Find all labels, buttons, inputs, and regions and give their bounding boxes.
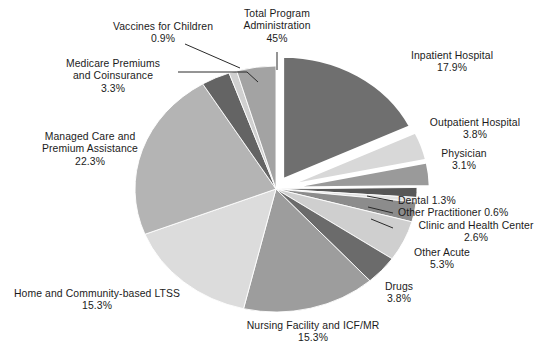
pie-label-vaccines-for-children-value: 0.9% <box>90 33 236 45</box>
pie-label-clinic-and-health-center: Clinic and Health Center 2.6% <box>398 220 554 245</box>
pie-label-outpatient-hospital: Outpatient Hospital 3.8% <box>412 117 538 142</box>
pie-label-medicare-premiums-name-line2: and Coinsurance <box>48 70 178 82</box>
pie-label-managed-care-name-line2: Premium Assistance <box>22 143 158 155</box>
pie-label-physician-value: 3.1% <box>416 160 512 172</box>
pie-label-nursing-facility-value: 15.3% <box>218 332 408 344</box>
leader-line-vaccines <box>185 44 240 68</box>
pie-label-vaccines-for-children: Vaccines for Children 0.9% <box>90 21 236 46</box>
pie-label-outpatient-hospital-value: 3.8% <box>412 129 538 141</box>
pie-label-outpatient-hospital-name: Outpatient Hospital <box>412 117 538 129</box>
pie-label-medicare-premiums: Medicare Premiums and Coinsurance 3.3% <box>48 58 178 95</box>
pie-label-other-practitioner-name: Other Practitioner <box>398 207 481 218</box>
pie-label-other-practitioner: Other Practitioner 0.6% <box>398 207 508 219</box>
pie-label-clinic-and-health-center-name: Clinic and Health Center <box>398 220 554 232</box>
pie-label-hcbs-name: Home and Community-based LTSS <box>4 288 190 300</box>
pie-chart-figure: Inpatient Hospital 17.9% Outpatient Hosp… <box>0 0 558 357</box>
pie-slice-group <box>135 56 430 312</box>
pie-label-other-acute-value: 5.3% <box>396 259 488 271</box>
pie-label-inpatient-hospital: Inpatient Hospital 17.9% <box>392 50 512 75</box>
pie-label-nursing-facility: Nursing Facility and ICF/MR 15.3% <box>218 320 408 345</box>
pie-label-physician-name: Physician <box>416 148 512 160</box>
pie-label-nursing-facility-name: Nursing Facility and ICF/MR <box>218 320 408 332</box>
pie-label-inpatient-hospital-value: 17.9% <box>392 62 512 74</box>
pie-label-dental: Dental 1.3% <box>398 195 456 207</box>
pie-label-vaccines-for-children-name: Vaccines for Children <box>90 21 236 33</box>
pie-label-total-program-administration-name-line1: Total Program <box>222 8 332 20</box>
pie-label-other-acute-name: Other Acute <box>396 247 488 259</box>
pie-label-managed-care: Managed Care and Premium Assistance 22.3… <box>22 131 158 168</box>
pie-label-total-program-administration-value: 45% <box>222 33 332 45</box>
pie-label-drugs-name: Drugs <box>372 281 426 293</box>
pie-label-clinic-and-health-center-value: 2.6% <box>398 232 554 244</box>
pie-label-drugs: Drugs 3.8% <box>372 281 426 306</box>
pie-label-inpatient-hospital-name: Inpatient Hospital <box>392 50 512 62</box>
pie-label-hcbs: Home and Community-based LTSS 15.3% <box>4 288 190 313</box>
pie-label-managed-care-value: 22.3% <box>22 156 158 168</box>
pie-label-dental-name: Dental <box>398 195 429 206</box>
pie-label-dental-value: 1.3% <box>432 195 456 206</box>
pie-label-medicare-premiums-value: 3.3% <box>48 83 178 95</box>
pie-label-total-program-administration-name-line2: Administration <box>222 20 332 32</box>
pie-label-managed-care-name-line1: Managed Care and <box>22 131 158 143</box>
pie-label-physician: Physician 3.1% <box>416 148 512 173</box>
pie-label-other-practitioner-value: 0.6% <box>484 207 508 218</box>
pie-label-total-program-administration: Total Program Administration 45% <box>222 8 332 45</box>
pie-label-other-acute: Other Acute 5.3% <box>396 247 488 272</box>
pie-label-hcbs-value: 15.3% <box>4 300 190 312</box>
pie-label-medicare-premiums-name-line1: Medicare Premiums <box>48 58 178 70</box>
pie-label-drugs-value: 3.8% <box>372 293 426 305</box>
